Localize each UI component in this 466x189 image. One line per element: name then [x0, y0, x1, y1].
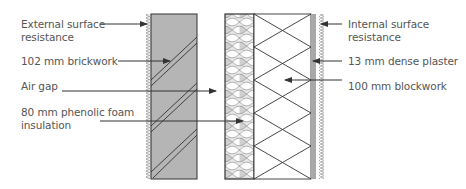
label-external-surface-resistance: External surface resistance [21, 18, 105, 44]
label-brickwork: 102 mm brickwork [21, 55, 118, 68]
label-plaster: 13 mm dense plaster [348, 55, 458, 68]
label-insulation: 80 mm phenolic foam insulation [21, 106, 134, 132]
label-line: Air gap [21, 80, 58, 93]
label-line: 100 mm blockwork [348, 80, 447, 93]
label-line: resistance [21, 31, 105, 44]
label-line: External surface [21, 18, 105, 31]
label-line: insulation [21, 119, 134, 132]
label-line: 80 mm phenolic foam [21, 106, 134, 119]
label-blockwork: 100 mm blockwork [348, 80, 447, 93]
label-line: Internal surface [348, 18, 429, 31]
label-internal-surface-resistance: Internal surface resistance [348, 18, 429, 44]
label-line: 102 mm brickwork [21, 55, 118, 68]
blockwork-layer [254, 14, 311, 179]
internal-surface-hatch [319, 14, 324, 179]
label-line: resistance [348, 31, 429, 44]
label-line: 13 mm dense plaster [348, 55, 458, 68]
brickwork-layer [151, 14, 197, 179]
plaster-layer [311, 14, 316, 179]
external-surface-hatch [146, 14, 151, 179]
label-air-gap: Air gap [21, 80, 58, 93]
insulation-layer [225, 14, 254, 179]
